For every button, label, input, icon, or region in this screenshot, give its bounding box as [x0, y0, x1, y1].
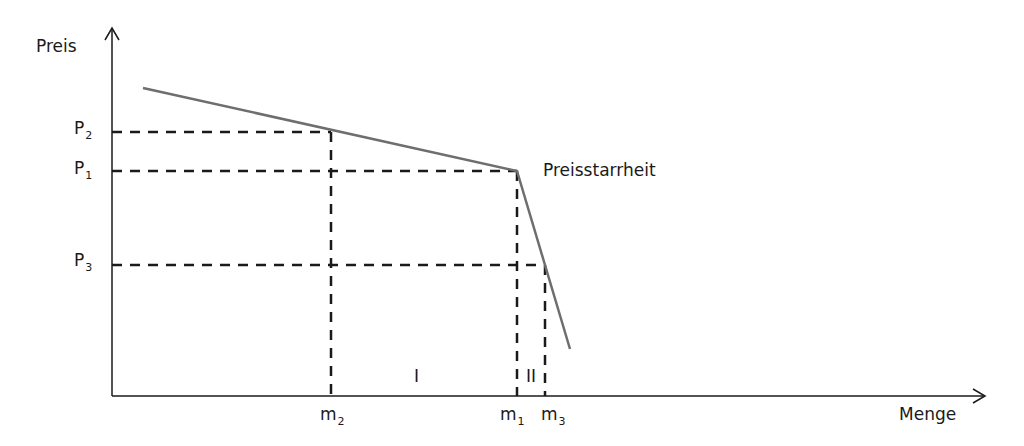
- m1-label: m1: [500, 404, 525, 424]
- x-axis-label: Menge: [899, 404, 956, 424]
- y-axis-label: Preis: [36, 36, 77, 56]
- kinked-demand-diagram: [0, 0, 1024, 446]
- p3-label: P3: [74, 250, 92, 270]
- m3-label: m3: [541, 404, 566, 424]
- p2-label: P2: [74, 118, 92, 138]
- kink-annotation: Preisstarrheit: [543, 160, 656, 180]
- region-ii-label: II: [526, 366, 536, 386]
- m2-label: m2: [320, 404, 345, 424]
- p1-label: P1: [74, 158, 92, 178]
- region-i-label: I: [414, 366, 419, 386]
- demand-curve: [143, 88, 570, 349]
